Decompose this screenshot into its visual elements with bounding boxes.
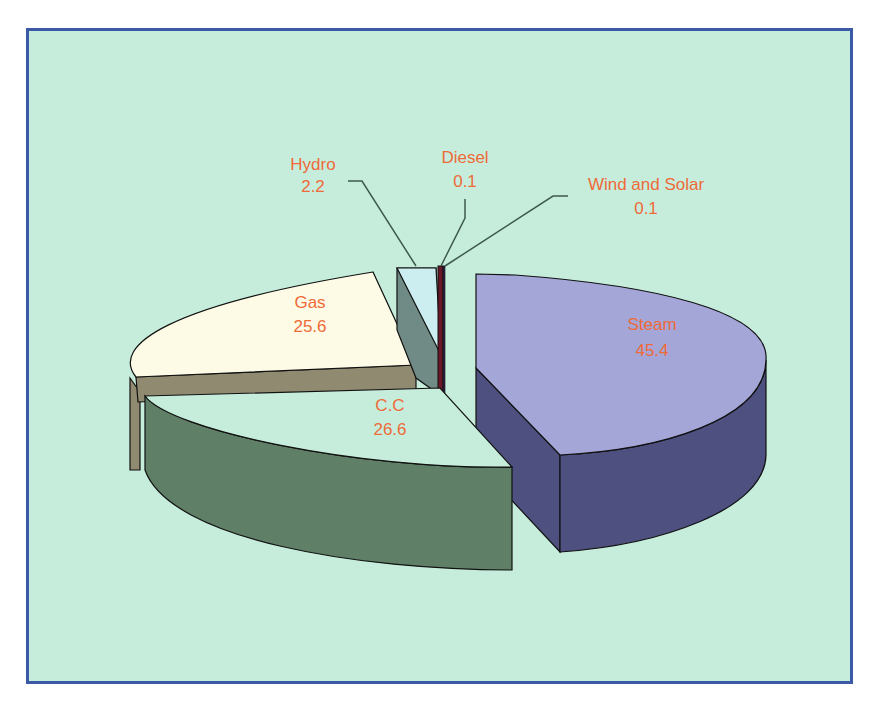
label-cc-value: 26.6 (373, 420, 406, 439)
slice-wind-solar (443, 266, 445, 398)
label-steam-value: 45.4 (635, 341, 668, 360)
label-diesel-value: 0.1 (453, 172, 477, 191)
slice-cc (145, 388, 512, 570)
label-cc-name: C.C (375, 396, 404, 415)
label-wind-solar-name: Wind and Solar (588, 175, 705, 194)
slice-steam (476, 274, 766, 552)
label-hydro-name: Hydro (290, 155, 335, 174)
label-gas-value: 25.6 (293, 317, 326, 336)
label-gas-name: Gas (294, 293, 325, 312)
leader-lines (348, 181, 568, 266)
pie-chart: Hydro 2.2 Diesel 0.1 Wind and Solar 0.1 … (0, 0, 872, 702)
label-wind-solar-value: 0.1 (634, 199, 658, 218)
label-steam-name: Steam (627, 315, 676, 334)
slice-diesel (438, 266, 443, 398)
label-diesel-name: Diesel (441, 148, 488, 167)
label-hydro-value: 2.2 (301, 177, 325, 196)
